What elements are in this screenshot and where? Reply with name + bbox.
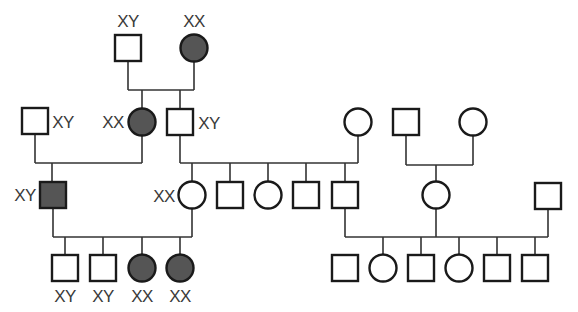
affected-male-square-icon <box>40 182 66 208</box>
affected-female-circle-icon <box>129 255 156 282</box>
female-circle-icon <box>460 109 487 136</box>
affected-female-circle-icon <box>167 255 194 282</box>
genotype-label: XX <box>102 114 124 131</box>
genotype-label: XY <box>14 187 36 204</box>
relationship-lines <box>35 62 548 254</box>
male-square-icon <box>90 255 116 281</box>
genotype-label: XY <box>54 288 76 305</box>
male-square-icon <box>115 35 141 61</box>
female-circle-icon <box>345 109 372 136</box>
genotype-label: XY <box>92 288 114 305</box>
affected-female-circle-icon <box>181 35 208 62</box>
male-square-icon <box>167 109 193 135</box>
male-square-icon <box>484 255 510 281</box>
genotype-label: XX <box>153 188 175 205</box>
female-circle-icon <box>446 255 473 282</box>
genotype-label: XY <box>198 115 220 132</box>
genotype-label: XY <box>52 114 74 131</box>
genotype-label: XY <box>117 13 139 30</box>
female-circle-icon <box>370 255 397 282</box>
male-square-icon <box>535 183 561 209</box>
female-circle-icon <box>423 182 450 209</box>
genotype-label: XX <box>183 13 205 30</box>
male-square-icon <box>522 255 548 281</box>
male-square-icon <box>52 255 78 281</box>
pedigree-chart <box>0 0 578 312</box>
male-square-icon <box>408 255 434 281</box>
male-square-icon <box>393 109 419 135</box>
male-square-icon <box>217 182 243 208</box>
female-circle-icon <box>255 182 282 209</box>
male-square-icon <box>22 108 48 134</box>
female-circle-icon <box>179 182 206 209</box>
affected-female-circle-icon <box>129 109 156 136</box>
male-square-icon <box>293 182 319 208</box>
genotype-label: XX <box>131 288 153 305</box>
male-square-icon <box>332 182 358 208</box>
male-square-icon <box>332 255 358 281</box>
genotype-label: XX <box>169 288 191 305</box>
